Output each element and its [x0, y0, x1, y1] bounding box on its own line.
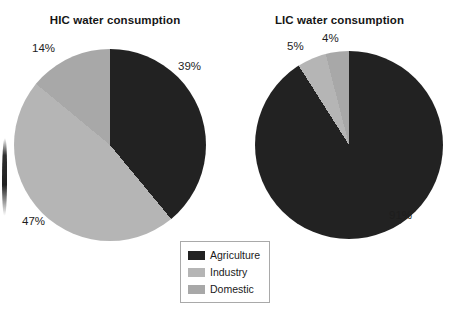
legend-item-domestic: Domestic — [188, 281, 269, 298]
legend-item-industry: Industry — [188, 264, 269, 281]
legend-swatch-domestic-icon — [188, 285, 205, 294]
pie-chart-hic — [14, 49, 206, 241]
legend-item-agriculture: Agriculture — [188, 247, 269, 264]
chart-panel-hic: HIC water consumption 14% 39% 47% — [0, 0, 226, 250]
pie-label-lic-industry: 5% — [287, 40, 304, 52]
legend-swatch-industry-icon — [188, 268, 205, 277]
chart-title-hic: HIC water consumption — [2, 14, 228, 26]
figure-canvas: HIC water consumption 14% 39% 47% LIC wa… — [0, 0, 453, 314]
legend-label-industry: Industry — [210, 267, 247, 278]
legend: Agriculture Industry Domestic — [180, 241, 270, 303]
chart-title-lic: LIC water consumption — [226, 14, 453, 26]
legend-label-domestic: Domestic — [210, 284, 254, 295]
pie-chart-lic — [255, 51, 443, 239]
legend-swatch-agriculture-icon — [188, 251, 205, 260]
pie-label-lic-domestic: 4% — [322, 32, 339, 44]
pie-label-hic-industry: 47% — [22, 215, 45, 227]
chart-panel-lic: LIC water consumption 5% 4% 91% — [226, 0, 453, 250]
pie-label-hic-agriculture: 39% — [178, 60, 201, 72]
pie-label-hic-domestic: 14% — [32, 42, 55, 54]
legend-label-agriculture: Agriculture — [210, 250, 260, 261]
pie-label-lic-agriculture: 91% — [389, 209, 412, 221]
